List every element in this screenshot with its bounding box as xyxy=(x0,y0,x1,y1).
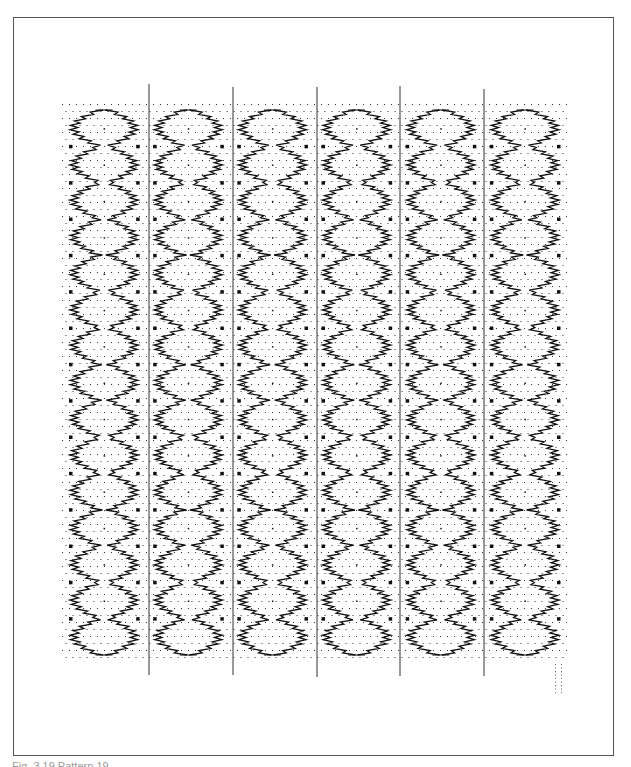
grid-dot xyxy=(171,349,172,350)
grid-dot xyxy=(195,594,196,595)
grid-dot xyxy=(262,209,263,210)
grid-dot xyxy=(213,419,214,420)
grid-dot xyxy=(230,244,231,245)
grid-dot xyxy=(521,433,522,434)
tail-dot xyxy=(555,682,556,683)
grid-dot xyxy=(556,433,557,434)
grid-dot xyxy=(199,223,200,224)
grid-dot xyxy=(517,468,518,469)
grid-dot xyxy=(514,279,515,280)
grid-dot xyxy=(517,300,518,301)
grid-dot xyxy=(444,531,445,532)
grid-dot xyxy=(136,307,137,308)
grid-dot xyxy=(405,244,406,245)
grid-dot xyxy=(465,433,466,434)
grid-dot xyxy=(318,139,319,140)
grid-dot xyxy=(192,475,193,476)
grid-dot xyxy=(94,545,95,546)
grid-dot xyxy=(318,531,319,532)
grid-dot xyxy=(300,188,301,189)
grid-dot xyxy=(377,412,378,413)
grid-dot xyxy=(237,258,238,259)
grid-dot xyxy=(503,524,504,525)
grid-dot xyxy=(216,174,217,175)
grid-dot xyxy=(188,342,189,343)
grid-dot xyxy=(451,153,452,154)
grid-dot xyxy=(122,643,123,644)
grid-dot xyxy=(195,300,196,301)
grid-dot xyxy=(489,412,490,413)
grid-dot xyxy=(157,307,158,308)
grid-dot xyxy=(468,650,469,651)
grid-dot xyxy=(223,370,224,371)
grid-dot xyxy=(199,587,200,588)
diamond-center-dot xyxy=(440,128,442,130)
grid-dot xyxy=(423,419,424,420)
grid-dot xyxy=(262,447,263,448)
grid-dot xyxy=(227,307,228,308)
grid-dot xyxy=(62,496,63,497)
grid-dot xyxy=(486,475,487,476)
grid-dot xyxy=(521,125,522,126)
grid-dot xyxy=(433,188,434,189)
grid-dot xyxy=(111,552,112,553)
grid-dot xyxy=(234,223,235,224)
grid-dot xyxy=(444,391,445,392)
grid-dot xyxy=(437,489,438,490)
grid-dot xyxy=(566,566,567,567)
grid-dot xyxy=(209,566,210,567)
grid-dot xyxy=(83,272,84,273)
grid-dot xyxy=(300,328,301,329)
grid-dot xyxy=(342,104,343,105)
grid-dot xyxy=(111,636,112,637)
grid-dot xyxy=(367,139,368,140)
grid-dot xyxy=(111,118,112,119)
grid-dot xyxy=(542,181,543,182)
grid-dot xyxy=(517,216,518,217)
grid-dot xyxy=(293,384,294,385)
grid-dot xyxy=(220,139,221,140)
grid-dot xyxy=(62,370,63,371)
grid-dot xyxy=(472,321,473,322)
grid-dot xyxy=(416,363,417,364)
grid-dot xyxy=(66,167,67,168)
grid-dot xyxy=(139,244,140,245)
grid-dot xyxy=(223,608,224,609)
grid-dot xyxy=(486,279,487,280)
grid-dot xyxy=(377,146,378,147)
grid-dot xyxy=(181,342,182,343)
grid-dot xyxy=(164,419,165,420)
grid-dot xyxy=(363,468,364,469)
grid-dot xyxy=(489,356,490,357)
grid-dot xyxy=(479,139,480,140)
grid-dot xyxy=(402,349,403,350)
grid-dot xyxy=(94,531,95,532)
grid-dot xyxy=(528,419,529,420)
grid-dot xyxy=(472,587,473,588)
grid-dot xyxy=(87,545,88,546)
square-marker xyxy=(473,254,477,257)
grid-dot xyxy=(258,160,259,161)
grid-dot xyxy=(384,398,385,399)
grid-dot xyxy=(349,286,350,287)
grid-dot xyxy=(304,447,305,448)
grid-dot xyxy=(419,356,420,357)
grid-dot xyxy=(346,377,347,378)
grid-dot xyxy=(304,111,305,112)
grid-dot xyxy=(402,587,403,588)
grid-dot xyxy=(223,118,224,119)
grid-dot xyxy=(255,615,256,616)
grid-dot xyxy=(262,125,263,126)
grid-dot xyxy=(111,174,112,175)
grid-dot xyxy=(335,566,336,567)
grid-dot xyxy=(444,153,445,154)
grid-dot xyxy=(269,447,270,448)
grid-dot xyxy=(486,545,487,546)
grid-dot xyxy=(360,531,361,532)
grid-dot xyxy=(363,118,364,119)
grid-dot xyxy=(409,265,410,266)
grid-dot xyxy=(507,517,508,518)
grid-dot xyxy=(391,482,392,483)
grid-dot xyxy=(304,335,305,336)
grid-dot xyxy=(209,636,210,637)
